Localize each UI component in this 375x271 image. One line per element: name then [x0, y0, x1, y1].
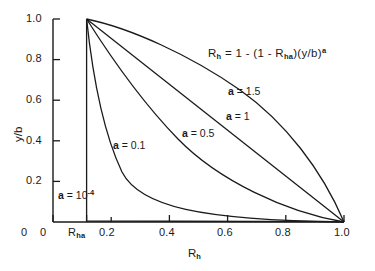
x-axis-title-sub: h [196, 252, 201, 261]
x-tick-rha-sub: ha [76, 231, 85, 240]
y-axis-ticks [53, 19, 60, 181]
x-tick-rha-main: R [68, 226, 76, 238]
curve-label-alpha-0p5: a = 0.5 [182, 127, 214, 139]
equation-tail: )(y/b) [293, 47, 322, 59]
equation-annotation: Rh = 1 - (1 - Rha)(y/b)a [208, 46, 326, 61]
x-tick-label-rha: Rha [68, 226, 85, 240]
y-tick-label-0-4: 0.4 [26, 134, 42, 146]
alpha-value-0p5: = 0.5 [188, 127, 215, 139]
x-tick-label-0: 0 [21, 226, 27, 238]
y-tick-label-0-6: 0.6 [26, 93, 42, 105]
alpha-value-1p5: = 1.5 [234, 85, 261, 97]
equation-exponent-alpha: a [322, 46, 326, 55]
y-tick-label-0-2: 0.2 [26, 174, 42, 186]
y-tick-label-0-8: 0.8 [26, 52, 42, 64]
alpha-value-1: = 1 [232, 110, 250, 122]
alpha-value-0p1: = 0.1 [119, 139, 146, 151]
x-tick-label-0-4: 0.4 [159, 226, 175, 238]
y-tick-label-1-0: 1.0 [26, 12, 42, 24]
x-tick-label-0-6: 0.6 [217, 226, 233, 238]
curve-label-alpha-1: a = 1 [226, 110, 250, 122]
equation-body-sub: ha [284, 52, 293, 61]
chart-figure: 1.0 0.8 0.6 0.4 0.2 0 y/b 0 Rha 0.2 0.4 … [0, 0, 375, 271]
alpha-exponent-1e-4: -4 [88, 188, 95, 197]
y-axis-title: y/b [12, 127, 24, 142]
x-tick-label-0-2: 0.2 [99, 226, 115, 238]
equation-body: = 1 - (1 - R [222, 47, 284, 59]
curve-label-alpha-1e-4: a = 10-4 [58, 188, 94, 201]
alpha-value-1e-4: = 10 [64, 189, 88, 201]
curve-label-alpha-0p1: a = 0.1 [113, 139, 145, 151]
x-tick-label-1-0: 1.0 [334, 226, 350, 238]
equation-lhs-main: R [208, 47, 217, 59]
y-tick-label-0: 0 [40, 226, 46, 238]
x-tick-label-0-8: 0.8 [275, 226, 291, 238]
x-axis-title: Rh [188, 247, 201, 261]
curve-label-alpha-1p5: a = 1.5 [228, 85, 260, 97]
